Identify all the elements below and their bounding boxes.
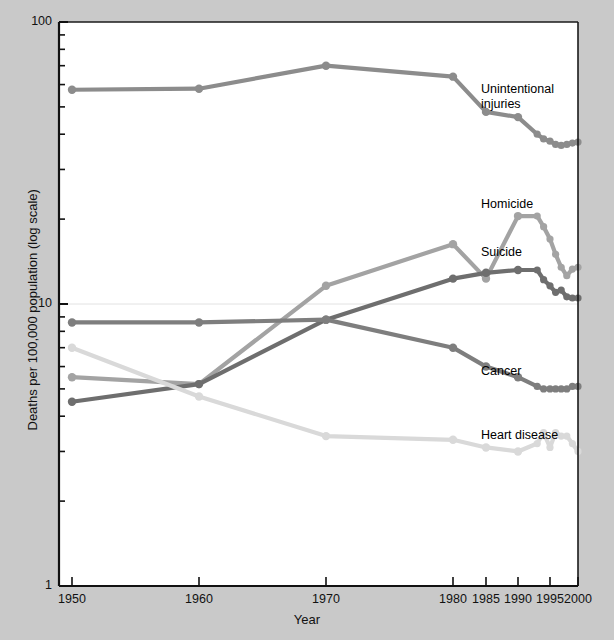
- y-tick-1: 1: [8, 578, 52, 592]
- series-label-homicide: Homicide: [481, 197, 533, 212]
- series-label-suicide: Suicide: [481, 245, 522, 260]
- series-label-heart-disease: Heart disease: [481, 428, 558, 443]
- chart-container: Deaths per 100,000 population (log scale…: [0, 0, 614, 640]
- y-tick-10: 10: [8, 296, 52, 310]
- x-tick-1960: 1960: [171, 592, 227, 606]
- x-axis-title: Year: [0, 612, 614, 627]
- x-tick-2000: 2000: [550, 592, 606, 606]
- x-tick-1950: 1950: [44, 592, 100, 606]
- y-axis-title: Deaths per 100,000 population (log scale…: [25, 191, 40, 431]
- series-label-cancer: Cancer: [481, 364, 521, 379]
- x-tick-1970: 1970: [298, 592, 354, 606]
- series-label-unintentional-injuries: Unintentional injuries: [481, 82, 554, 112]
- y-tick-100: 100: [8, 14, 52, 28]
